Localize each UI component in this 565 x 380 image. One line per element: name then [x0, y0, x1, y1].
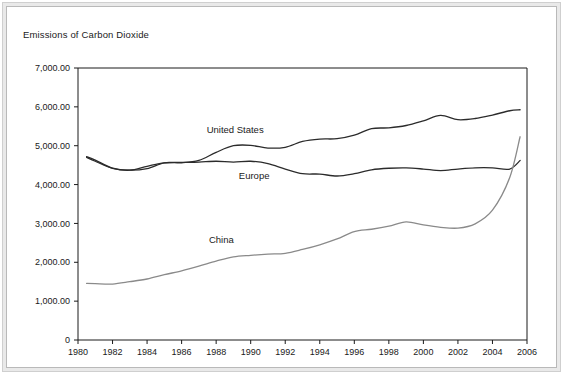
series-label-china: China: [209, 234, 235, 245]
series-label-europe: Europe: [239, 170, 270, 181]
y-tick-label: 2,000.00: [35, 257, 70, 267]
series-line-china: [87, 137, 520, 284]
x-tick-label: 1982: [103, 347, 123, 357]
y-tick-label: 4,000.00: [35, 180, 70, 190]
x-tick-label: 1992: [275, 347, 295, 357]
y-tick-label: 7,000.00: [35, 63, 70, 73]
series-line-united-states: [87, 110, 520, 170]
x-tick-label: 1988: [206, 347, 226, 357]
y-tick-label: 1,000.00: [35, 296, 70, 306]
x-tick-label: 1994: [310, 347, 330, 357]
x-tick-label: 1986: [172, 347, 192, 357]
x-tick-label: 1990: [241, 347, 261, 357]
x-tick-label: 1998: [379, 347, 399, 357]
x-tick-label: 1984: [137, 347, 157, 357]
x-tick-label: 2002: [448, 347, 468, 357]
y-tick-label: 6,000.00: [35, 102, 70, 112]
x-tick-label: 1996: [344, 347, 364, 357]
y-tick-label: 0: [65, 335, 70, 345]
x-tick-label: 1980: [68, 347, 88, 357]
emissions-line-chart: 01,000.002,000.003,000.004,000.005,000.0…: [7, 7, 558, 369]
x-tick-label: 2004: [482, 347, 502, 357]
x-tick-label: 2000: [413, 347, 433, 357]
y-tick-label: 3,000.00: [35, 219, 70, 229]
y-tick-label: 5,000.00: [35, 141, 70, 151]
x-tick-label: 2006: [517, 347, 537, 357]
chart-axes: [78, 68, 527, 340]
series-label-united-states: United States: [207, 124, 264, 135]
figure-frame: Emissions of Carbon Dioxide 01,000.002,0…: [6, 6, 557, 368]
